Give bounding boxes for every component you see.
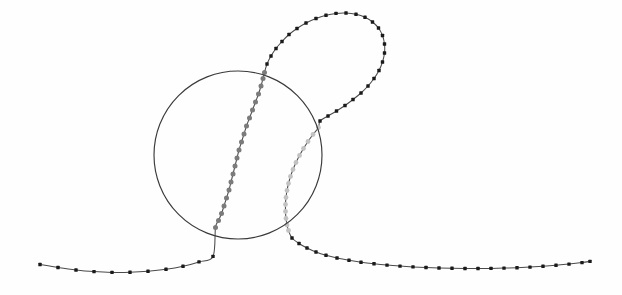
data-point-marker [274, 47, 277, 50]
data-point-marker [326, 114, 329, 117]
data-point-marker [437, 266, 440, 269]
data-point-marker [265, 62, 268, 65]
data-point-marker [216, 218, 221, 223]
data-point-marker [237, 148, 242, 153]
data-point-marker [567, 262, 570, 265]
data-point-marker [318, 119, 321, 122]
data-point-marker [242, 132, 247, 137]
data-point-marker [351, 98, 354, 101]
data-point-marker [335, 109, 338, 112]
series-trajectory-loop-outside [265, 11, 386, 122]
data-point-marker [311, 132, 316, 137]
series-trajectory-inside-ascending [213, 70, 267, 230]
data-point-marker [244, 124, 249, 129]
data-point-marker [297, 153, 302, 158]
data-point-marker [305, 246, 308, 249]
data-point-marker [235, 156, 240, 161]
data-point-marker [347, 259, 350, 262]
data-point-marker [213, 225, 218, 230]
data-point-marker [335, 256, 338, 259]
data-point-marker [366, 84, 369, 87]
figure-canvas [0, 0, 622, 295]
data-point-marker [515, 266, 518, 269]
data-point-marker [304, 21, 307, 24]
data-point-marker [301, 146, 306, 151]
data-point-marker [110, 271, 113, 274]
data-point-marker [261, 76, 266, 81]
data-point-marker [476, 267, 479, 270]
data-point-marker [146, 270, 149, 273]
data-point-marker [211, 255, 214, 258]
data-point-marker [297, 242, 300, 245]
data-point-marker [502, 266, 505, 269]
data-point-marker [383, 42, 386, 45]
data-point-marker [74, 268, 77, 271]
data-point-marker [286, 181, 291, 186]
data-point-marker [381, 34, 384, 37]
data-point-marker [541, 265, 544, 268]
data-point-marker [92, 270, 95, 273]
data-point-marker [377, 69, 380, 72]
series-trajectory-outside-left [38, 255, 214, 274]
data-point-marker [284, 216, 289, 221]
data-point-marker [250, 108, 255, 113]
data-point-marker [290, 236, 293, 239]
data-point-marker [385, 263, 388, 266]
data-point-marker [371, 20, 374, 23]
data-point-marker [247, 116, 252, 121]
data-point-marker [314, 17, 317, 20]
data-point-marker [324, 14, 327, 17]
data-point-marker [224, 196, 229, 201]
data-point-marker [383, 51, 386, 54]
data-point-marker [222, 204, 227, 209]
scatter-plot-svg [0, 0, 622, 295]
data-point-marker [381, 60, 384, 63]
data-point-marker [344, 11, 347, 14]
data-point-marker [233, 164, 238, 169]
data-point-marker [554, 264, 557, 267]
data-point-marker [359, 261, 362, 264]
data-point-marker [580, 261, 583, 264]
data-point-marker [588, 260, 591, 263]
data-point-marker [324, 254, 327, 257]
data-point-marker [363, 16, 366, 19]
data-point-marker [528, 265, 531, 268]
data-point-marker [219, 211, 224, 216]
data-point-marker [181, 265, 184, 268]
data-point-marker [56, 266, 59, 269]
data-point-marker [424, 266, 427, 269]
data-point-marker [269, 54, 272, 57]
data-point-marker [314, 250, 317, 253]
data-point-marker [291, 167, 296, 172]
data-point-marker [256, 92, 261, 97]
data-point-marker [286, 228, 291, 233]
data-point-marker [372, 77, 375, 80]
data-point-marker [489, 267, 492, 270]
data-point-marker [38, 263, 41, 266]
series-trajectory-outside-right [290, 236, 591, 270]
data-point-marker [283, 209, 288, 214]
data-point-marker [231, 172, 236, 177]
data-point-marker [450, 267, 453, 270]
data-point-marker [280, 40, 283, 43]
data-point-marker [288, 174, 293, 179]
data-point-marker [197, 260, 200, 263]
data-point-marker [334, 12, 337, 15]
data-point-marker [227, 188, 232, 193]
data-point-marker [259, 84, 264, 89]
data-point-marker [285, 188, 290, 193]
data-point-marker [359, 91, 362, 94]
data-point-marker [294, 160, 299, 165]
data-point-marker [306, 139, 311, 144]
data-point-marker [354, 13, 357, 16]
data-point-marker [229, 180, 234, 185]
data-point-marker [239, 140, 244, 145]
data-point-marker [164, 268, 167, 271]
trajectory-line [40, 13, 590, 273]
data-point-marker [411, 265, 414, 268]
data-point-marker [128, 271, 131, 274]
series-layer [38, 11, 591, 274]
data-point-marker [372, 262, 375, 265]
data-point-marker [283, 202, 288, 207]
data-point-marker [377, 26, 380, 29]
